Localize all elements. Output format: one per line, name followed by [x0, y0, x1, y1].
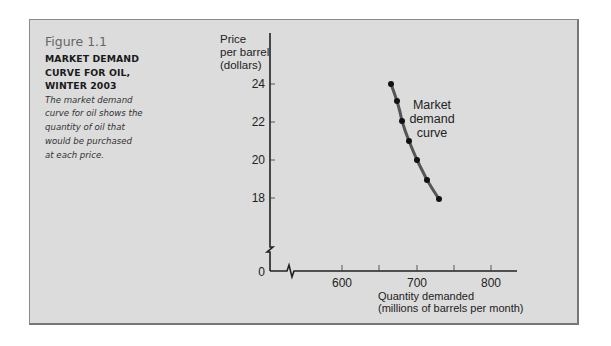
svg-text:700: 700	[407, 276, 427, 290]
svg-text:Market: Market	[413, 98, 452, 112]
x-tick-labels: 600 700 800	[332, 276, 501, 290]
svg-text:(millions of barrels per month: (millions of barrels per month)	[378, 302, 524, 314]
data-point	[414, 157, 420, 163]
data-point	[388, 81, 394, 87]
svg-text:0: 0	[258, 265, 265, 279]
x-ticks	[342, 265, 491, 271]
data-point	[399, 118, 405, 124]
y-axis-label: Price per barrel (dollars)	[220, 33, 269, 71]
demand-chart: Price per barrel (dollars) 24 22 20 18 0…	[0, 0, 611, 346]
svg-text:Price: Price	[220, 33, 246, 45]
svg-text:20: 20	[252, 153, 266, 167]
svg-text:demand: demand	[409, 112, 454, 126]
data-point	[394, 98, 400, 104]
svg-text:per barrel: per barrel	[220, 46, 269, 58]
svg-text:22: 22	[252, 115, 266, 129]
data-point	[424, 177, 430, 183]
svg-text:curve: curve	[417, 126, 448, 140]
y-axis	[267, 33, 273, 271]
curve-annotation: Market demand curve	[409, 98, 454, 140]
svg-text:Quantity demanded: Quantity demanded	[378, 290, 474, 302]
data-point	[436, 196, 442, 202]
svg-text:(dollars): (dollars)	[220, 59, 262, 71]
x-axis	[270, 265, 517, 277]
data-point	[406, 138, 412, 144]
svg-text:18: 18	[252, 191, 266, 205]
svg-text:600: 600	[332, 276, 352, 290]
y-tick-labels: 24 22 20 18 0	[252, 77, 266, 279]
x-axis-label: Quantity demanded (millions of barrels p…	[378, 290, 524, 314]
svg-text:24: 24	[252, 77, 266, 91]
svg-text:800: 800	[481, 276, 501, 290]
